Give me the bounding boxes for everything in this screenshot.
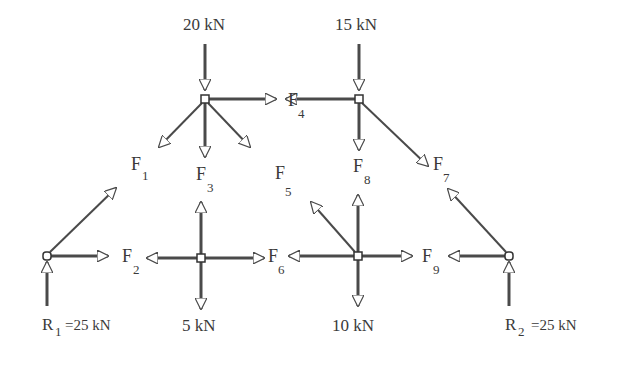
svg-text:=25 kN: =25 kN xyxy=(65,317,111,333)
member-arrow-f7-bottom xyxy=(448,189,506,252)
member-label-f6: F 6 xyxy=(268,246,285,277)
member-arrow-f5-bottom xyxy=(311,202,355,252)
member-label-f1: F 1 xyxy=(131,154,149,183)
svg-text:F: F xyxy=(275,163,285,183)
svg-text:4: 4 xyxy=(298,106,305,121)
load-label-10kn: 10 kN xyxy=(332,316,374,335)
svg-text:5: 5 xyxy=(285,184,292,199)
joint-node xyxy=(201,95,209,103)
svg-text:F: F xyxy=(433,154,443,174)
svg-text:R: R xyxy=(42,315,54,334)
member-arrow-f7-top xyxy=(362,103,428,166)
svg-text:F: F xyxy=(268,246,278,266)
truss-fbd-diagram: 20 kN 15 kN 5 kN 10 kN R 1 =25 kN R 2 =2… xyxy=(0,0,624,367)
svg-text:7: 7 xyxy=(443,170,450,185)
svg-text:R: R xyxy=(505,315,517,334)
joint-node xyxy=(197,254,205,262)
svg-text:F: F xyxy=(196,164,206,184)
joint-support-left xyxy=(43,188,116,306)
svg-text:F: F xyxy=(288,90,298,110)
svg-text:9: 9 xyxy=(433,262,440,277)
svg-text:F: F xyxy=(131,154,141,174)
member-label-f2: F 2 xyxy=(122,246,140,277)
joint-node xyxy=(355,95,363,103)
svg-text:1: 1 xyxy=(55,324,62,339)
member-arrow-f1-top xyxy=(159,103,202,147)
member-arrow-f5-top xyxy=(208,103,250,147)
member-label-f4: F 4 xyxy=(288,90,305,121)
svg-text:F: F xyxy=(122,246,132,266)
member-label-f9: F 9 xyxy=(422,246,440,277)
svg-text:F: F xyxy=(422,246,432,266)
joint-top-left xyxy=(159,44,276,157)
member-label-f7: F 7 xyxy=(433,154,450,185)
reaction-label-r1: R 1 =25 kN xyxy=(42,315,111,339)
load-label-15kn: 15 kN xyxy=(335,15,377,34)
svg-text:1: 1 xyxy=(142,168,149,183)
load-label-5kn: 5 kN xyxy=(182,316,216,335)
svg-text:6: 6 xyxy=(278,262,285,277)
joint-node xyxy=(43,252,51,260)
load-label-20kn: 20 kN xyxy=(183,15,225,34)
member-label-f3: F 3 xyxy=(196,164,214,195)
svg-text:2: 2 xyxy=(133,262,140,277)
joint-bottom-mid-left xyxy=(147,202,264,309)
svg-text:2: 2 xyxy=(518,324,525,339)
svg-text:3: 3 xyxy=(207,180,214,195)
svg-text:F: F xyxy=(353,156,363,176)
joint-bottom-mid-right xyxy=(289,195,412,306)
member-label-f5: F 5 xyxy=(275,163,292,199)
joint-node xyxy=(505,252,513,260)
joint-support-right xyxy=(448,189,513,306)
joint-node xyxy=(354,252,362,260)
member-label-f8: F 8 xyxy=(353,156,371,187)
svg-text:8: 8 xyxy=(364,172,371,187)
member-arrow-f1-bottom xyxy=(50,188,116,252)
joint-top-right xyxy=(286,44,428,166)
svg-text:=25 kN: =25 kN xyxy=(531,317,577,333)
reaction-label-r2: R 2 =25 kN xyxy=(505,315,577,339)
